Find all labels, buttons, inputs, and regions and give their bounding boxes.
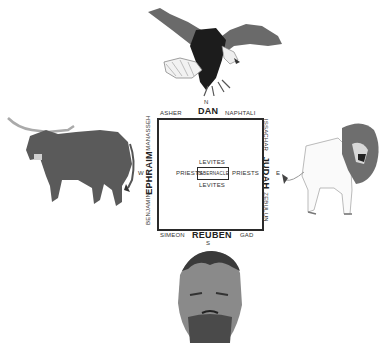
tabernacle-box: TABERNACLE [197, 167, 229, 180]
tribe-manasseh: MANASSEH [145, 113, 151, 153]
tribe-asher: ASHER [160, 110, 182, 116]
south-marker: S [206, 240, 210, 246]
tribe-benjamin: BENJAMIN [145, 189, 151, 229]
tabernacle-label: TABERNACLE [197, 171, 229, 176]
east-marker: E [276, 170, 280, 176]
levites-north: LEVITES [199, 159, 225, 165]
tribe-gad: GAD [240, 232, 254, 238]
north-marker: N [204, 99, 209, 105]
tribe-simeon: SIMEON [160, 232, 185, 238]
tribe-naphtali: NAPHTALI [225, 110, 256, 116]
ox-icon [0, 110, 145, 220]
levites-south: LEVITES [199, 182, 225, 188]
tribe-reuben: REUBEN [192, 230, 232, 240]
tribe-dan: DAN [198, 106, 218, 116]
man-face-icon [140, 245, 280, 343]
west-marker: W [138, 170, 144, 176]
lion-icon [270, 110, 387, 235]
eagle-icon [130, 0, 290, 100]
priests-east: PRIESTS [232, 170, 259, 176]
